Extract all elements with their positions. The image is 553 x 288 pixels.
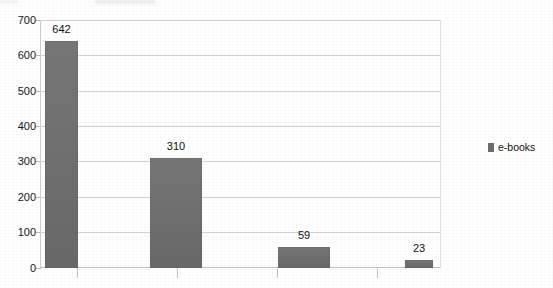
bar-chart: 700 600 500 400 300 200 100 0 642 310 xyxy=(0,0,553,288)
legend-item-label: e-books xyxy=(498,142,535,153)
bar-3[interactable] xyxy=(278,247,330,268)
bar-label-4: 23 xyxy=(405,243,433,254)
gridline-500 xyxy=(40,91,440,92)
y-tick-label-600: 600 xyxy=(2,50,36,61)
plot-area xyxy=(40,20,440,268)
y-tick-label-200: 200 xyxy=(2,192,36,203)
bar-label-1: 642 xyxy=(45,24,78,35)
gridline-300 xyxy=(40,161,440,162)
y-tick-label-400: 400 xyxy=(2,121,36,132)
scan-artifact-corner xyxy=(0,0,18,3)
gridline-400 xyxy=(40,126,440,127)
bar-1[interactable] xyxy=(45,41,78,268)
bar-label-2: 310 xyxy=(150,141,202,152)
gridline-600 xyxy=(40,55,440,56)
x-tick-3 xyxy=(277,268,278,278)
gridline-200 xyxy=(40,197,440,198)
bar-label-3: 59 xyxy=(278,230,330,241)
plot-right-edge xyxy=(440,20,441,268)
y-tick-label-300: 300 xyxy=(2,156,36,167)
legend[interactable]: e-books xyxy=(488,142,535,153)
legend-swatch-icon xyxy=(488,143,494,152)
x-tick-4 xyxy=(377,268,378,278)
x-tick-1 xyxy=(77,268,78,278)
bar-2[interactable] xyxy=(150,158,202,268)
scan-artifact xyxy=(95,0,155,4)
y-tick-mark-0 xyxy=(36,268,41,269)
y-tick-label-100: 100 xyxy=(2,227,36,238)
y-tick-label-0: 0 xyxy=(2,263,36,274)
gridline-700 xyxy=(40,20,440,21)
bar-4[interactable] xyxy=(405,260,433,268)
gridline-100 xyxy=(40,232,440,233)
y-tick-label-700: 700 xyxy=(2,15,36,26)
gridline-baseline-0 xyxy=(40,267,440,268)
x-tick-2 xyxy=(177,268,178,278)
y-tick-label-500: 500 xyxy=(2,86,36,97)
